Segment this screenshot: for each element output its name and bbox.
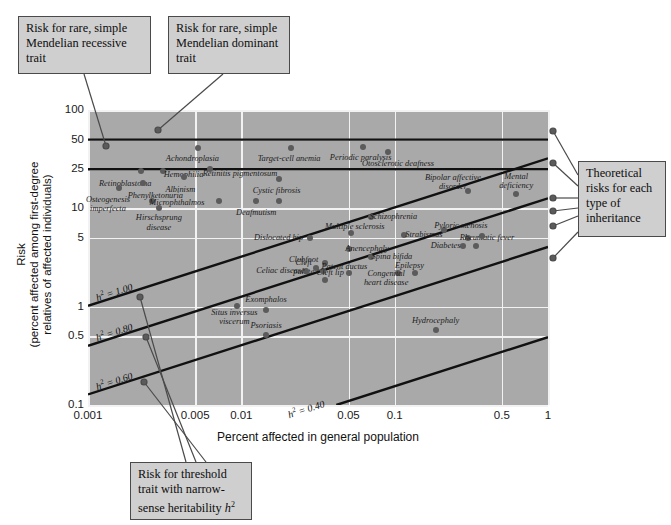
data-point xyxy=(156,205,162,211)
chart-plot-area: RetinoblastomaOsteogenesis imperfectaPhe… xyxy=(88,110,548,405)
callout-recessive-trait: Risk for rare, simple Mendelian recessiv… xyxy=(18,16,151,74)
y-axis-title-line-3: relatives of affected individuals) xyxy=(41,125,54,385)
data-point xyxy=(263,307,269,313)
data-point xyxy=(513,191,519,197)
data-point xyxy=(140,180,146,186)
data-point-label: Otosclerotic deafness xyxy=(362,159,434,168)
data-point-label: Schizophrenia xyxy=(370,212,418,221)
data-point-label: Congenital heart disease xyxy=(364,269,408,287)
callout-threshold-line-1: Risk for threshold xyxy=(138,467,227,481)
data-point-label: Hydrocephaly xyxy=(412,316,459,325)
data-point xyxy=(195,145,201,151)
data-point xyxy=(181,174,187,180)
data-point xyxy=(473,243,479,249)
data-point xyxy=(460,243,466,249)
y-axis-title: Risk (percent affected among first-degre… xyxy=(15,125,54,385)
y-tick-label: 1 xyxy=(78,300,84,312)
data-point-label: Retinitis pigmentosum xyxy=(203,169,278,178)
x-tick-label: 0.001 xyxy=(74,409,103,421)
data-point-label: Multiple sclerosis xyxy=(325,222,384,231)
y-tick-label: 10 xyxy=(71,201,84,213)
data-point xyxy=(385,149,391,155)
callout-theoretical-risks: Theoretical risks for each type of inher… xyxy=(578,161,666,237)
data-point-label: Dislocated hip xyxy=(254,233,303,242)
x-tick-label: 0.01 xyxy=(230,409,252,421)
data-point xyxy=(433,327,439,333)
x-axis-title: Percent affected in general population xyxy=(88,430,548,444)
data-point-label: Pyloric stenosis xyxy=(434,221,487,230)
x-tick-label: 0.005 xyxy=(181,409,210,421)
data-point xyxy=(138,168,144,174)
data-point-label: Bipolar affective disorder xyxy=(425,173,481,191)
callout-threshold-line-2: trait with narrow- xyxy=(138,482,225,496)
data-point-label: Cystic fibrosis xyxy=(253,186,301,195)
data-point xyxy=(288,145,294,151)
data-point-label: Target-cell anemia xyxy=(258,154,321,163)
data-point-label: Achondroplasia xyxy=(166,154,219,163)
data-point-label: Psoriasis xyxy=(250,321,281,330)
data-point xyxy=(322,277,328,283)
data-point-label: Celiac disease xyxy=(256,266,305,275)
y-tick-label: 25 xyxy=(71,162,84,174)
vertical-gridline xyxy=(548,110,550,405)
x-tick-label: 1 xyxy=(545,409,551,421)
data-point-label: Mental deficiency xyxy=(499,172,533,190)
reference-line-h2-0.40 xyxy=(336,337,548,405)
data-point-label: Spina bifida xyxy=(372,252,413,261)
data-point xyxy=(479,233,485,239)
y-tick-label: 50 xyxy=(71,133,84,145)
callout-threshold-trait: Risk for threshold trait with narrow- se… xyxy=(130,462,252,520)
callout-threshold-exponent: 2 xyxy=(231,500,235,509)
callout-dominant-trait: Risk for rare, simple Mendelian dominant… xyxy=(168,16,290,74)
data-point xyxy=(276,198,282,204)
x-axis-ticks: 0.0010.0050.010.050.10.51 xyxy=(88,409,548,427)
data-point-label: Exomphalos xyxy=(245,295,286,304)
data-point xyxy=(412,270,418,276)
data-point-label: Deafmutism xyxy=(236,208,276,217)
data-point-label: Albinism xyxy=(165,185,195,194)
data-point-label: Strabismus xyxy=(405,231,442,240)
data-point xyxy=(307,235,313,241)
data-point-label: Hirschsprung disease xyxy=(136,213,182,231)
data-point-label: Cleft lip xyxy=(317,268,344,277)
y-tick-label: 100 xyxy=(65,103,84,115)
y-tick-label: 5 xyxy=(78,231,84,243)
data-point-label: Epilepsy xyxy=(395,261,424,270)
y-axis-title-line-2: (percent affected among first-degree xyxy=(28,125,41,385)
data-point xyxy=(216,198,222,204)
x-tick-label: 0.1 xyxy=(387,409,403,421)
data-point-label: Diabetes xyxy=(431,242,461,251)
data-point xyxy=(346,270,352,276)
y-tick-label: 0.5 xyxy=(68,329,84,341)
x-tick-label: 0.5 xyxy=(494,409,510,421)
callout-threshold-line-3: sense heritability xyxy=(138,501,225,515)
data-point-label: Osteogenesis imperfecta xyxy=(86,195,130,213)
data-point xyxy=(253,198,259,204)
data-point xyxy=(263,332,269,338)
y-axis-title-line-1: Risk xyxy=(15,125,28,385)
data-point xyxy=(276,176,282,182)
x-tick-label: 0.05 xyxy=(337,409,359,421)
data-point xyxy=(116,185,122,191)
data-point xyxy=(360,144,366,150)
data-point-label: Rheumatic fever xyxy=(460,233,515,242)
